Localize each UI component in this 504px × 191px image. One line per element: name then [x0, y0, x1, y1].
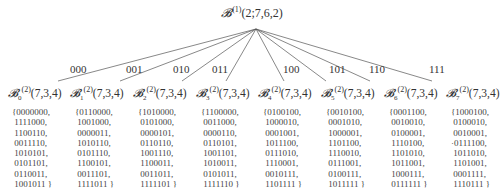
- codeword: 0010001,: [451, 128, 490, 138]
- child-superscript: (2): [335, 85, 344, 94]
- codeword: 0011000,: [201, 117, 240, 127]
- codeword: 1111101 }: [138, 179, 177, 189]
- edge-label-001: 001: [126, 63, 143, 75]
- root-params: (2;7,6,2): [242, 6, 283, 20]
- codeword-set-7: {1000100, 0100010, 0010001,·0111100, 101…: [451, 107, 490, 189]
- child-node-1: 𝓑1(2)(7,3,4): [70, 87, 124, 100]
- child-symbol: 𝓑: [446, 87, 456, 99]
- codeword: 1100011,: [138, 158, 177, 168]
- child-params: (7,3,4): [31, 87, 62, 99]
- child-subscript: 7: [456, 94, 460, 102]
- codeword: 1010011,: [201, 158, 240, 168]
- child-params: (7,3,4): [219, 87, 250, 99]
- codeword: 0101000,: [138, 117, 177, 127]
- child-params: (7,3,4): [469, 87, 500, 99]
- codeword: 1001000,: [75, 117, 114, 127]
- codeword: 1110111 }: [451, 179, 490, 189]
- codeword-set-1: {0110000, 1001000, 0000011, 1010110, 010…: [75, 107, 114, 189]
- codeword: 1001110,: [138, 148, 177, 158]
- child-superscript: (2): [147, 85, 156, 94]
- child-params: (7,3,4): [344, 87, 375, 99]
- codeword: 1100101,: [75, 158, 114, 168]
- codeword: 1010101,: [12, 148, 52, 158]
- edge-label-010: 010: [173, 63, 190, 75]
- codeword: 1011010,: [451, 148, 490, 158]
- child-symbol: 𝓑: [196, 87, 206, 99]
- codeword: {0000000,: [12, 107, 52, 117]
- codeword: 0100111,: [326, 169, 365, 179]
- codeword-set-3: {1100000, 0011000, 0000110, 0110101, 100…: [201, 107, 240, 189]
- codeword: 0101110,: [75, 148, 114, 158]
- codeword: 1011001,: [389, 158, 428, 168]
- edge-label-000: 000: [70, 63, 87, 75]
- edge-label-111: 111: [429, 63, 445, 75]
- codeword: {0100100,: [263, 107, 302, 117]
- edge-label-100: 100: [283, 63, 300, 75]
- codeword-set-0: {0000000, 1111000, 1100110, 0011110, 101…: [12, 107, 52, 189]
- codeword: 0111001,: [326, 158, 365, 168]
- codeword: 0101101,: [12, 158, 52, 168]
- codeword: 1110001,: [263, 158, 302, 168]
- root-node: 𝓑(1)(2;7,6,2): [0, 6, 504, 21]
- edge-label-011: 011: [212, 63, 228, 75]
- codeword: 1000010,: [263, 117, 302, 127]
- child-params: (7,3,4): [156, 87, 187, 99]
- codeword: 1110100,: [389, 138, 428, 148]
- child-superscript: (2): [22, 85, 31, 94]
- codeword: 0110011,: [12, 169, 52, 179]
- child-node-3: 𝓑3(2)(7,3,4): [196, 87, 250, 100]
- codeword: 1011111 }: [326, 179, 365, 189]
- child-subscript: 2: [143, 94, 147, 102]
- codeword: 1111000,: [12, 117, 52, 127]
- codeword: 0100010,: [451, 117, 490, 127]
- codeword-set-2: {1010000, 0101000, 0000101, 0110110, 100…: [138, 107, 177, 189]
- codeword: 1001101,: [201, 148, 240, 158]
- codeword: {1100000,: [201, 107, 240, 117]
- child-symbol: 𝓑: [133, 87, 143, 99]
- child-superscript: (2): [84, 85, 93, 94]
- codeword: 0001111,: [451, 169, 490, 179]
- child-symbol: 𝓑: [8, 87, 18, 99]
- child-node-6: 𝓑6(2)(7,3,4): [384, 87, 438, 100]
- child-superscript: (2): [460, 85, 469, 94]
- codeword: 0100001,: [389, 128, 428, 138]
- child-subscript: 4: [268, 94, 272, 102]
- codeword: 0010010,: [389, 117, 428, 127]
- codeword: 1010110,: [75, 138, 114, 148]
- child-params: (7,3,4): [281, 87, 312, 99]
- codeword: 1111110 }: [201, 179, 240, 189]
- codeword: 1101010,: [389, 148, 428, 158]
- codeword: 0000110,: [201, 128, 240, 138]
- codeword: 0000101,: [138, 128, 177, 138]
- child-symbol: 𝓑: [384, 87, 394, 99]
- codeword: 1000111,: [389, 169, 428, 179]
- codeword: 0001001,: [263, 128, 302, 138]
- child-superscript: (2): [398, 85, 407, 94]
- codeword: {1010000,: [138, 107, 177, 117]
- codeword: 0011101,: [75, 169, 114, 179]
- codeword-set-5: {0010100, 0001010, 1000001, 1101100, 111…: [326, 107, 365, 189]
- child-subscript: 3: [206, 94, 210, 102]
- child-node-5: 𝓑5(2)(7,3,4): [321, 87, 375, 100]
- root-superscript: (1): [232, 5, 241, 14]
- child-node-2: 𝓑2(2)(7,3,4): [133, 87, 187, 100]
- child-superscript: (2): [272, 85, 281, 94]
- child-superscript: (2): [210, 85, 219, 94]
- codeword: 1101100,: [326, 138, 365, 148]
- codeword: 0001010,: [326, 117, 365, 127]
- codeword: 1101111 }: [263, 179, 302, 189]
- child-subscript: 0: [18, 94, 22, 102]
- root-symbol: 𝓑: [221, 6, 232, 20]
- codeword: 0101011,: [201, 169, 240, 179]
- child-subscript: 5: [331, 94, 335, 102]
- codeword: 0110110,: [138, 138, 177, 148]
- codeword: {1000100,: [451, 107, 490, 117]
- child-params: (7,3,4): [407, 87, 438, 99]
- codeword: 1000001,: [326, 128, 365, 138]
- codeword: 0011011,: [138, 169, 177, 179]
- codeword: 0011110,: [12, 138, 52, 148]
- codeword: 0110101,: [201, 138, 240, 148]
- codeword: 1011100,: [263, 138, 302, 148]
- child-node-7: 𝓑7(2)(7,3,4): [446, 87, 500, 100]
- codeword: 1001011 }: [12, 179, 52, 189]
